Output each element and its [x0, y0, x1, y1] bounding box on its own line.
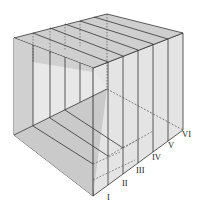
label-II: II: [122, 178, 128, 188]
label-V: V: [168, 140, 175, 150]
label-VI: VI: [182, 129, 191, 139]
label-III: III: [136, 165, 145, 175]
cube-diagram: I II III IV V VI: [0, 0, 203, 214]
label-IV: IV: [152, 152, 162, 162]
label-I: I: [107, 192, 110, 202]
cube-sections-figure: I II III IV V VI: [0, 0, 203, 214]
